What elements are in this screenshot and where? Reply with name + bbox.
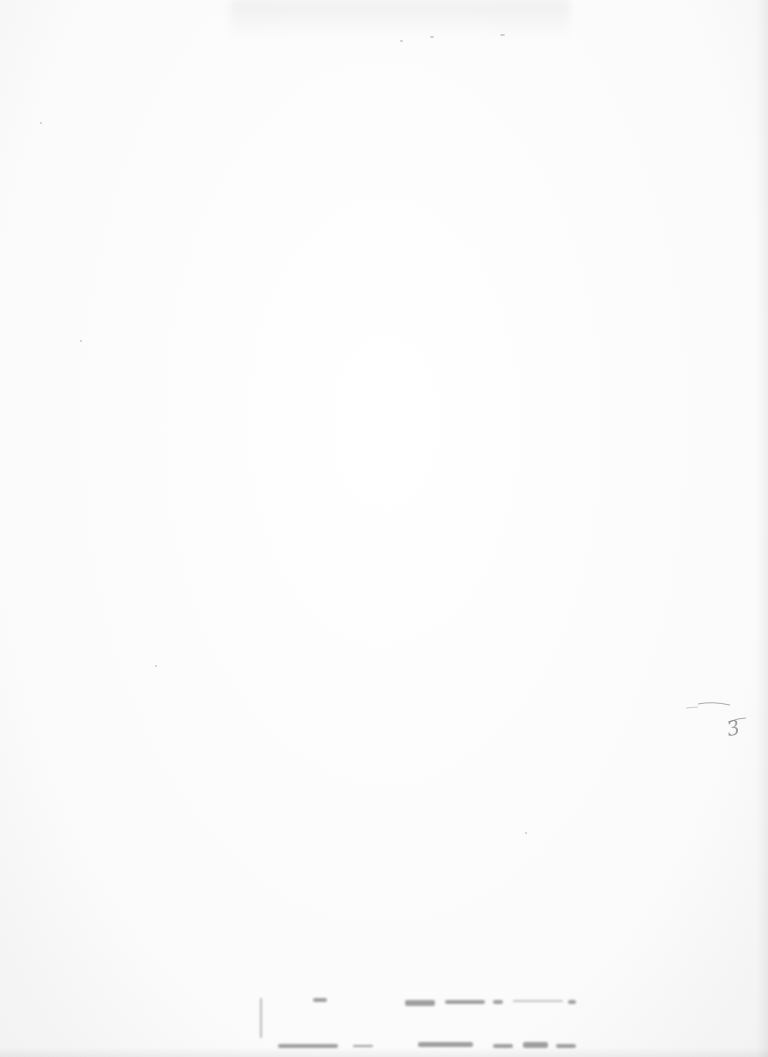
scan-speck bbox=[400, 40, 403, 42]
scan-speck bbox=[525, 832, 527, 834]
scan-speck bbox=[40, 122, 42, 124]
scan-speck bbox=[80, 340, 82, 342]
scan-shadow-right bbox=[756, 0, 768, 1057]
scan-shadow-top bbox=[230, 0, 570, 40]
pencil-dash-mark bbox=[684, 696, 754, 746]
scan-speck bbox=[430, 36, 434, 38]
scan-speck bbox=[500, 34, 505, 36]
blank-scanned-page: 3 bbox=[0, 0, 768, 1057]
scan-speck bbox=[155, 665, 157, 667]
bleed-through-text bbox=[258, 990, 588, 1057]
